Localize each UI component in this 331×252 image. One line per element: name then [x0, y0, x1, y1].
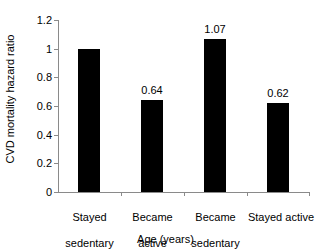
bar-stayed-sedentary — [78, 49, 100, 192]
y-axis-title: CVD mortality hazard ratio — [2, 6, 18, 192]
x-tick-2 — [184, 192, 185, 196]
x-tick-4 — [309, 192, 310, 196]
y-tick-label-2: 0.4 — [37, 127, 52, 143]
y-axis-line — [58, 20, 59, 192]
y-tick-label-1: 0.2 — [37, 155, 52, 171]
bar-value-stayed-active: 0.62 — [257, 87, 299, 100]
x-tick-3 — [247, 192, 248, 196]
y-tick-label-0: 0 — [46, 184, 52, 200]
x-category-line1: Stayed active — [245, 211, 317, 224]
y-tick-label-5: 1 — [46, 41, 52, 57]
x-category-line1: Became — [121, 211, 184, 224]
x-category-line1: Became — [184, 211, 247, 224]
x-axis-title: Age (years) — [0, 232, 331, 246]
x-tick-1 — [121, 192, 122, 196]
chart-figure: CVD mortality hazard ratio 0 0.2 0.4 0.6… — [0, 0, 331, 252]
plot-area: 0 0.2 0.4 0.6 0.8 1 1.2 — [58, 20, 310, 192]
bar-value-became-sedentary: 1.07 — [194, 23, 236, 36]
y-tick-label-3: 0.6 — [37, 98, 52, 114]
y-tick-label-4: 0.8 — [37, 69, 52, 85]
x-category-line1: Stayed — [58, 211, 121, 224]
bar-became-sedentary — [204, 39, 226, 192]
y-tick-label-6: 1.2 — [37, 12, 52, 28]
bar-stayed-active — [267, 103, 289, 192]
bar-value-became-active: 0.64 — [131, 84, 173, 97]
bar-became-active — [141, 100, 163, 192]
